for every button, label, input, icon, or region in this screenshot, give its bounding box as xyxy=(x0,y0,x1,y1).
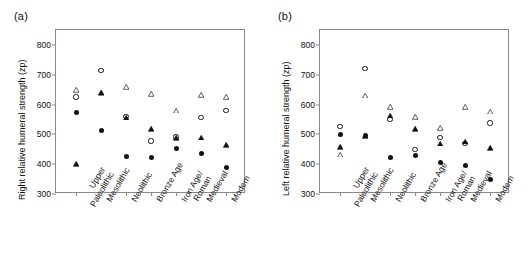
figure-container: (a) Right relative humeral strength (zp)… xyxy=(0,0,528,262)
y-axis-tick-mark xyxy=(316,194,320,195)
open-triangle-marker xyxy=(437,125,443,131)
panel-a-plot-area: 800700600500400300UpperPaleolithicMesoli… xyxy=(55,29,245,193)
x-axis-tick-mark xyxy=(390,192,391,196)
y-axis-tick-mark xyxy=(52,134,56,135)
y-axis-tick-label: 300 xyxy=(37,189,51,199)
y-axis-tick-mark xyxy=(52,74,56,75)
chart-panel-a: (a) Right relative humeral strength (zp)… xyxy=(0,0,264,262)
x-axis-tick-mark xyxy=(465,192,466,196)
x-axis-tick-mark xyxy=(151,192,152,196)
open-triangle-marker xyxy=(123,84,129,90)
y-axis-tick-label: 700 xyxy=(301,70,315,80)
open-circle-marker xyxy=(412,147,417,152)
y-axis-tick-mark xyxy=(316,164,320,165)
panel-b-label: (b) xyxy=(278,10,292,22)
filled-circle-marker xyxy=(174,146,179,151)
open-circle-marker xyxy=(123,114,128,119)
panel-b-y-axis-title: Left relative humeral strength (zp) xyxy=(281,61,291,196)
y-axis-tick-label: 300 xyxy=(301,189,315,199)
y-axis-tick-mark xyxy=(316,134,320,135)
y-axis-tick-mark xyxy=(52,194,56,195)
x-axis-tick-label: Neolithic xyxy=(130,171,155,204)
open-circle-marker xyxy=(73,94,78,99)
filled-triangle-marker xyxy=(98,90,104,96)
open-triangle-marker xyxy=(173,108,179,114)
filled-triangle-marker xyxy=(223,142,229,148)
open-circle-marker xyxy=(387,117,392,122)
filled-circle-marker xyxy=(388,155,393,160)
filled-circle-marker xyxy=(413,153,418,158)
filled-triangle-marker xyxy=(487,145,493,151)
open-triangle-marker xyxy=(387,104,393,110)
y-axis-tick-label: 600 xyxy=(37,100,51,110)
filled-circle-marker xyxy=(74,110,79,115)
x-axis-tick-mark xyxy=(126,192,127,196)
x-axis-tick-mark xyxy=(76,192,77,196)
y-axis-tick-mark xyxy=(316,104,320,105)
y-axis-tick-mark xyxy=(52,44,56,45)
filled-triangle-marker xyxy=(123,115,129,121)
y-axis-tick-label: 800 xyxy=(37,40,51,50)
filled-triangle-marker xyxy=(148,126,154,132)
filled-triangle-marker xyxy=(437,141,443,147)
open-circle-marker xyxy=(437,135,442,140)
filled-circle-marker xyxy=(124,154,129,159)
y-axis-tick-label: 700 xyxy=(37,70,51,80)
y-axis-tick-mark xyxy=(52,104,56,105)
x-axis-tick-mark xyxy=(440,192,441,196)
panel-a-y-axis-title: Right relative humeral strength (zp) xyxy=(17,59,27,200)
open-circle-marker xyxy=(487,120,492,125)
open-circle-marker xyxy=(223,108,228,113)
x-axis-tick-mark xyxy=(415,192,416,196)
y-axis-tick-mark xyxy=(316,44,320,45)
x-axis-tick-mark xyxy=(365,192,366,196)
filled-triangle-marker xyxy=(362,133,368,139)
filled-triangle-marker xyxy=(73,161,79,167)
filled-circle-marker xyxy=(149,155,154,160)
filled-circle-marker xyxy=(338,132,343,137)
x-axis-tick-mark xyxy=(176,192,177,196)
x-axis-tick-label: Modern xyxy=(230,174,253,204)
y-axis-tick-label: 600 xyxy=(301,100,315,110)
open-triangle-marker xyxy=(198,92,204,98)
filled-triangle-marker xyxy=(387,113,393,119)
filled-triangle-marker xyxy=(412,126,418,132)
open-circle-marker xyxy=(173,134,178,139)
x-axis-tick-mark xyxy=(201,192,202,196)
chart-panel-b: (b) Left relative humeral strength (zp) … xyxy=(264,0,528,262)
open-triangle-marker xyxy=(223,94,229,100)
open-triangle-marker xyxy=(73,87,79,93)
open-triangle-marker xyxy=(337,152,343,158)
y-axis-tick-label: 400 xyxy=(37,159,51,169)
filled-triangle-marker xyxy=(337,144,343,150)
open-triangle-marker xyxy=(487,109,493,115)
panel-b-plot-area: 800700600500400300UpperPaleolithicMesoli… xyxy=(319,29,509,193)
y-axis-tick-label: 400 xyxy=(301,159,315,169)
x-axis-tick-mark xyxy=(226,192,227,196)
filled-circle-marker xyxy=(99,128,104,133)
y-axis-tick-mark xyxy=(52,164,56,165)
x-axis-tick-label: Modern xyxy=(494,174,517,204)
open-circle-marker xyxy=(98,68,103,73)
open-circle-marker xyxy=(337,124,342,129)
y-axis-tick-label: 800 xyxy=(301,40,315,50)
x-axis-tick-mark xyxy=(340,192,341,196)
filled-circle-marker xyxy=(224,165,229,170)
open-circle-marker xyxy=(362,66,367,71)
filled-circle-marker xyxy=(199,151,204,156)
open-circle-marker xyxy=(148,138,153,143)
y-axis-tick-label: 500 xyxy=(301,129,315,139)
x-axis-tick-mark xyxy=(101,192,102,196)
open-triangle-marker xyxy=(98,90,104,96)
panel-a-label: (a) xyxy=(14,10,28,22)
filled-triangle-marker xyxy=(462,139,468,145)
x-axis-tick-label: Neolithic xyxy=(394,171,419,204)
open-triangle-marker xyxy=(462,104,468,110)
open-triangle-marker xyxy=(362,93,368,99)
y-axis-tick-label: 500 xyxy=(37,129,51,139)
open-circle-marker xyxy=(462,141,467,146)
open-triangle-marker xyxy=(148,91,154,97)
open-circle-marker xyxy=(198,115,203,120)
x-axis-tick-mark xyxy=(490,192,491,196)
filled-triangle-marker xyxy=(173,135,179,141)
